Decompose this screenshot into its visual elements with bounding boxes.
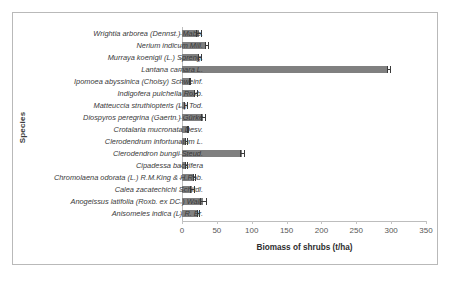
x-axis-tick (252, 221, 253, 224)
bar-row (182, 88, 426, 100)
category-label: Nerium indicum Mill. (136, 40, 203, 52)
x-axis-tick-label: 100 (245, 226, 258, 235)
error-bar-cap-low (387, 66, 388, 73)
category-label: Ipomoea abyssinica (Choisy) Schweinf. (74, 76, 203, 88)
category-label: Murraya koenigii (L.) Spreng. (108, 52, 203, 64)
x-axis-tick-label: 250 (350, 226, 363, 235)
bar-row (182, 148, 426, 160)
category-label: Matteuccia struthiopteris (L.) Tod. (94, 100, 203, 112)
y-axis-title-label: Species (19, 111, 28, 143)
bar-plot-area (182, 28, 426, 220)
x-axis-tick-label: 200 (315, 226, 328, 235)
x-axis-tick (356, 221, 357, 224)
x-axis-tick-label: 350 (419, 226, 432, 235)
error-bar-cap-high (244, 150, 245, 157)
bar-row (182, 112, 426, 124)
category-label: Indigofera pulchella Roxb. (118, 88, 203, 100)
x-axis-tick (217, 221, 218, 224)
category-label: Anogeissus latifolia (Roxb. ex DC.) Wall… (70, 196, 203, 208)
bar-row (182, 64, 426, 76)
x-axis-title: Biomass of shrubs (t/ha) (182, 243, 427, 252)
x-axis-tick-label: 150 (280, 226, 293, 235)
x-axis-tick (426, 221, 427, 224)
x-axis-tick-label: 300 (384, 226, 397, 235)
bar-row (182, 76, 426, 88)
bar-row (182, 28, 426, 40)
bar-row (182, 136, 426, 148)
y-axis-title: Species (14, 92, 32, 162)
category-label: Chromolaena odorata (L.) R.M.King & H.Ro… (54, 172, 203, 184)
error-bar-cap-high (208, 42, 209, 49)
x-axis-tick-label: 0 (180, 226, 184, 235)
category-label: Wrightia arborea (Dennst.) Mabb. (93, 28, 203, 40)
bar-row (182, 160, 426, 172)
x-axis-tick (321, 221, 322, 224)
bar-row (182, 124, 426, 136)
category-label: Cipadessa baccifera (136, 160, 203, 172)
bar-row (182, 184, 426, 196)
x-axis-tick-label: 50 (212, 226, 221, 235)
error-bar-cap-low (205, 42, 206, 49)
category-label: Crotalaria mucronata Desv. (114, 124, 203, 136)
chart-figure: Species 050100150200250300350 Biomass of… (0, 0, 453, 294)
error-bar-cap-high (390, 66, 391, 73)
x-axis-tick (287, 221, 288, 224)
error-bar-cap-low (240, 150, 241, 157)
x-axis-tick (391, 221, 392, 224)
category-label: Lantana camara L. (141, 64, 203, 76)
category-label: Clerodendron bungii Steud. (113, 148, 203, 160)
bar-row (182, 52, 426, 64)
bar-row (182, 100, 426, 112)
error-bar-cap-high (206, 198, 207, 205)
category-label: Diospyros peregrina (Gaertn.) Gürke (83, 112, 203, 124)
bar-row (182, 208, 426, 220)
bar (182, 66, 388, 73)
bar-row (182, 172, 426, 184)
category-label: Clerodendrum infortunatum L. (105, 136, 203, 148)
category-label: Calea zacatechichi Schltdl. (115, 184, 203, 196)
x-axis-tick (182, 221, 183, 224)
error-bar-cap-high (205, 114, 206, 121)
bar-row (182, 40, 426, 52)
category-label: Anisomeles indica (L) R. Br. (112, 208, 203, 220)
bar-row (182, 196, 426, 208)
